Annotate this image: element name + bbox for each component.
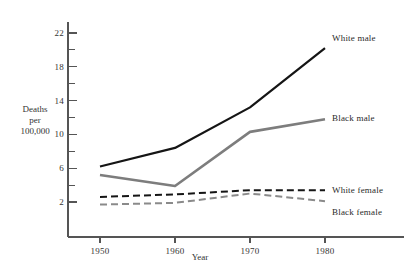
series-line: [100, 119, 325, 186]
series-line: [100, 48, 325, 166]
x-tick-label: 1980: [316, 246, 335, 256]
series-label: Black female: [332, 207, 382, 217]
line-chart: Deaths per 100,000 Year 2610141822195019…: [0, 0, 410, 270]
y-axis-title-line-1: Deaths: [6, 104, 64, 115]
y-tick-label: 6: [36, 163, 64, 173]
y-tick-label: 18: [36, 62, 64, 72]
series-label: White female: [332, 185, 383, 195]
y-tick-label: 10: [36, 129, 64, 139]
series-line: [100, 190, 325, 197]
y-tick-label: 14: [36, 96, 64, 106]
series-label: Black male: [332, 113, 375, 123]
series-label: White male: [332, 33, 376, 43]
y-tick-label: 22: [36, 28, 64, 38]
x-tick-label: 1970: [241, 246, 260, 256]
y-tick-label: 2: [36, 197, 64, 207]
x-tick-label: 1960: [166, 246, 185, 256]
data-series: [100, 48, 325, 204]
y-axis-title-line-2: per: [6, 115, 64, 126]
x-tick-label: 1950: [91, 246, 110, 256]
